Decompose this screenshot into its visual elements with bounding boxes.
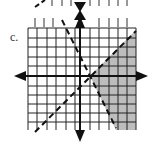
solution-region xyxy=(90,30,136,130)
y-axis-down-arrow-icon xyxy=(75,130,85,142)
inequality-graph xyxy=(0,0,153,145)
x-axis-left-arrow-icon xyxy=(14,71,26,81)
x-axis-right-arrow-icon xyxy=(136,71,148,81)
